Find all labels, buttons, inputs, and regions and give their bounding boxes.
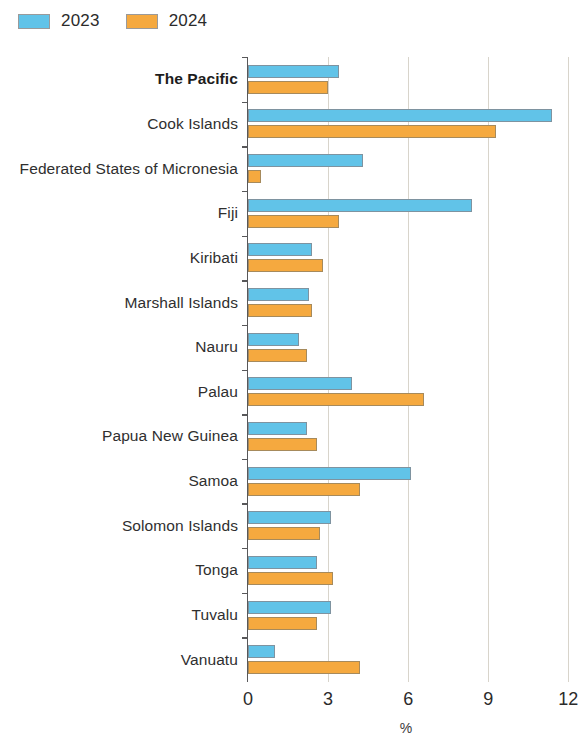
category-label: Tuvalu	[0, 606, 238, 623]
category-label: Vanuatu	[0, 651, 238, 668]
bar-2023	[248, 109, 552, 122]
category-label: Federated States of Micronesia	[0, 160, 238, 177]
chart-row: Nauru	[0, 325, 579, 370]
legend-item-2024: 2024	[126, 11, 208, 31]
bar-2024	[248, 393, 424, 406]
x-tick-label: 9	[483, 689, 493, 710]
category-label: Papua New Guinea	[0, 427, 238, 444]
bar-group	[248, 236, 579, 281]
bar-group	[248, 280, 579, 325]
x-axis-title: %	[400, 720, 412, 736]
chart-row: Federated States of Micronesia	[0, 146, 579, 191]
chart-row: Marshall Islands	[0, 280, 579, 325]
bar-2024	[248, 259, 323, 272]
chart-row: The Pacific	[0, 57, 579, 102]
legend-label-2023: 2023	[61, 11, 100, 31]
bar-group	[248, 370, 579, 415]
chart-rows: The PacificCook IslandsFederated States …	[0, 57, 579, 682]
chart-row: Kiribati	[0, 236, 579, 281]
bar-2024	[248, 349, 307, 362]
category-label: Palau	[0, 383, 238, 400]
bar-2024	[248, 304, 312, 317]
bar-2023	[248, 422, 307, 435]
bar-chart: The PacificCook IslandsFederated States …	[0, 52, 579, 732]
bar-2023	[248, 467, 411, 480]
bar-group	[248, 146, 579, 191]
chart-row: Papua New Guinea	[0, 414, 579, 459]
chart-legend: 2023 2024	[18, 9, 207, 33]
bar-2024	[248, 170, 261, 183]
chart-row: Palau	[0, 370, 579, 415]
chart-row: Samoa	[0, 459, 579, 504]
chart-row: Fiji	[0, 191, 579, 236]
bar-2024	[248, 572, 333, 585]
bar-2024	[248, 617, 317, 630]
category-label: Marshall Islands	[0, 294, 238, 311]
category-label: Samoa	[0, 472, 238, 489]
bar-group	[248, 325, 579, 370]
bar-group	[248, 637, 579, 682]
category-label: Fiji	[0, 204, 238, 221]
legend-swatch-2024	[126, 14, 158, 29]
bar-2024	[248, 661, 360, 674]
bar-group	[248, 414, 579, 459]
x-tick-label: 6	[403, 689, 413, 710]
chart-row: Tonga	[0, 548, 579, 593]
x-axis-ticks: 036912	[0, 689, 579, 719]
x-tick-label: 3	[323, 689, 333, 710]
bar-2023	[248, 377, 352, 390]
x-tick-label: 0	[243, 689, 253, 710]
legend-label-2024: 2024	[169, 11, 208, 31]
bar-2024	[248, 215, 339, 228]
category-label: The Pacific	[0, 70, 238, 87]
bar-group	[248, 593, 579, 638]
bar-2023	[248, 288, 309, 301]
bar-group	[248, 459, 579, 504]
bar-2024	[248, 438, 317, 451]
bar-group	[248, 102, 579, 147]
bar-2024	[248, 483, 360, 496]
bar-2023	[248, 243, 312, 256]
bar-2024	[248, 527, 320, 540]
chart-row: Cook Islands	[0, 102, 579, 147]
bar-group	[248, 57, 579, 102]
chart-row: Vanuatu	[0, 637, 579, 682]
bar-2023	[248, 154, 363, 167]
legend-item-2023: 2023	[18, 11, 100, 31]
chart-row: Tuvalu	[0, 593, 579, 638]
bar-2023	[248, 645, 275, 658]
bar-group	[248, 548, 579, 593]
bar-2023	[248, 199, 472, 212]
bar-2023	[248, 333, 299, 346]
legend-swatch-2023	[18, 14, 50, 29]
x-tick-label: 12	[558, 689, 578, 710]
category-label: Tonga	[0, 561, 238, 578]
bar-2023	[248, 65, 339, 78]
bar-group	[248, 503, 579, 548]
category-label: Nauru	[0, 338, 238, 355]
bar-group	[248, 191, 579, 236]
category-label: Kiribati	[0, 249, 238, 266]
bar-2024	[248, 125, 496, 138]
category-label: Solomon Islands	[0, 517, 238, 534]
chart-row: Solomon Islands	[0, 503, 579, 548]
bar-2024	[248, 81, 328, 94]
category-label: Cook Islands	[0, 115, 238, 132]
bar-2023	[248, 511, 331, 524]
bar-2023	[248, 556, 317, 569]
bar-2023	[248, 601, 331, 614]
